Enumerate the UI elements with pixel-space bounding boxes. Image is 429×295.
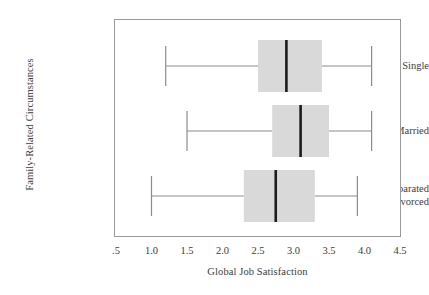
x-tick-label: 2.5 xyxy=(238,245,278,256)
x-tick-label: 3.0 xyxy=(274,245,314,256)
boxes-group xyxy=(152,40,372,222)
y-axis-title: Family-Related Circumstances xyxy=(24,18,35,232)
x-tick-label: 2.0 xyxy=(203,245,243,256)
category-label-single-text: Single xyxy=(402,60,429,71)
x-tick-label: 3.5 xyxy=(309,245,349,256)
box-plot-row xyxy=(166,40,372,92)
box-iqr xyxy=(258,40,322,92)
x-tick-label: 1.5 xyxy=(167,245,207,256)
box-plot-row xyxy=(187,105,372,157)
box-plot-figure: Family-Related Circumstances Single Marr… xyxy=(0,0,429,295)
x-tick-label: 4.5 xyxy=(380,245,420,256)
x-tick-label: 4.0 xyxy=(345,245,385,256)
plot-frame xyxy=(114,19,401,237)
x-tick-label: .5 xyxy=(96,245,136,256)
box-iqr xyxy=(244,170,315,222)
box-plot-row xyxy=(152,170,358,222)
x-tick-label: 1.0 xyxy=(132,245,172,256)
x-axis-title: Global Job Satisfaction xyxy=(114,266,401,277)
box-plot-canvas xyxy=(115,20,400,236)
